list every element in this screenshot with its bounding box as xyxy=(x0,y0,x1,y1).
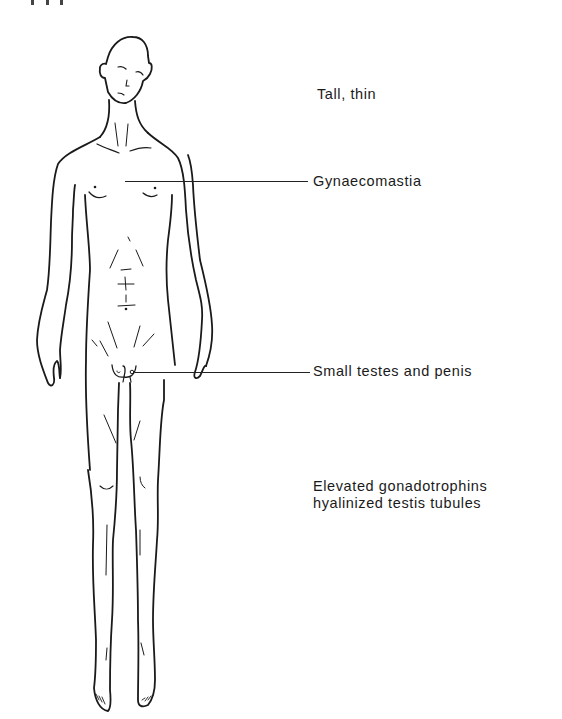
small-testes-leader-line xyxy=(135,372,310,373)
annotation-text: Tall, thin xyxy=(317,86,376,102)
annotation-small-testes: Small testes and penis xyxy=(313,363,472,380)
annotation-gonadotrophins: Elevated gonadotrophins hyalinized testi… xyxy=(313,478,487,512)
annotation-gynaecomastia: Gynaecomastia xyxy=(313,173,422,190)
annotation-text: Small testes and penis xyxy=(313,363,472,379)
body-figure-illustration xyxy=(0,0,562,719)
head-outline xyxy=(100,37,152,103)
annotation-tall-thin: Tall, thin xyxy=(317,86,376,103)
annotation-text-line-2: hyalinized testis tubules xyxy=(313,495,487,512)
annotation-text-line-1: Elevated gonadotrophins xyxy=(313,478,487,495)
gynaecomastia-leader-line xyxy=(125,181,308,182)
annotation-text: Gynaecomastia xyxy=(313,173,422,189)
